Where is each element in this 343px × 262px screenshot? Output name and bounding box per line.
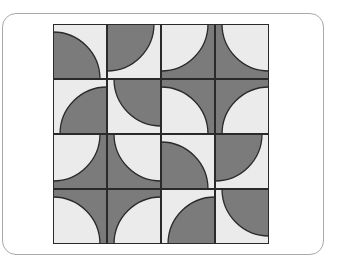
tile — [107, 79, 161, 134]
tile — [161, 189, 215, 244]
tile — [215, 79, 269, 134]
tile-pattern — [53, 24, 269, 244]
tile — [107, 189, 161, 244]
tile — [53, 189, 107, 244]
tile — [107, 24, 161, 79]
tile — [161, 79, 215, 134]
tile — [53, 24, 107, 79]
tile — [161, 134, 215, 189]
tile — [215, 134, 269, 189]
tile — [53, 79, 107, 134]
tile — [161, 24, 215, 79]
tile — [107, 134, 161, 189]
tile — [215, 24, 269, 79]
tile — [215, 189, 269, 244]
tile — [53, 134, 107, 189]
